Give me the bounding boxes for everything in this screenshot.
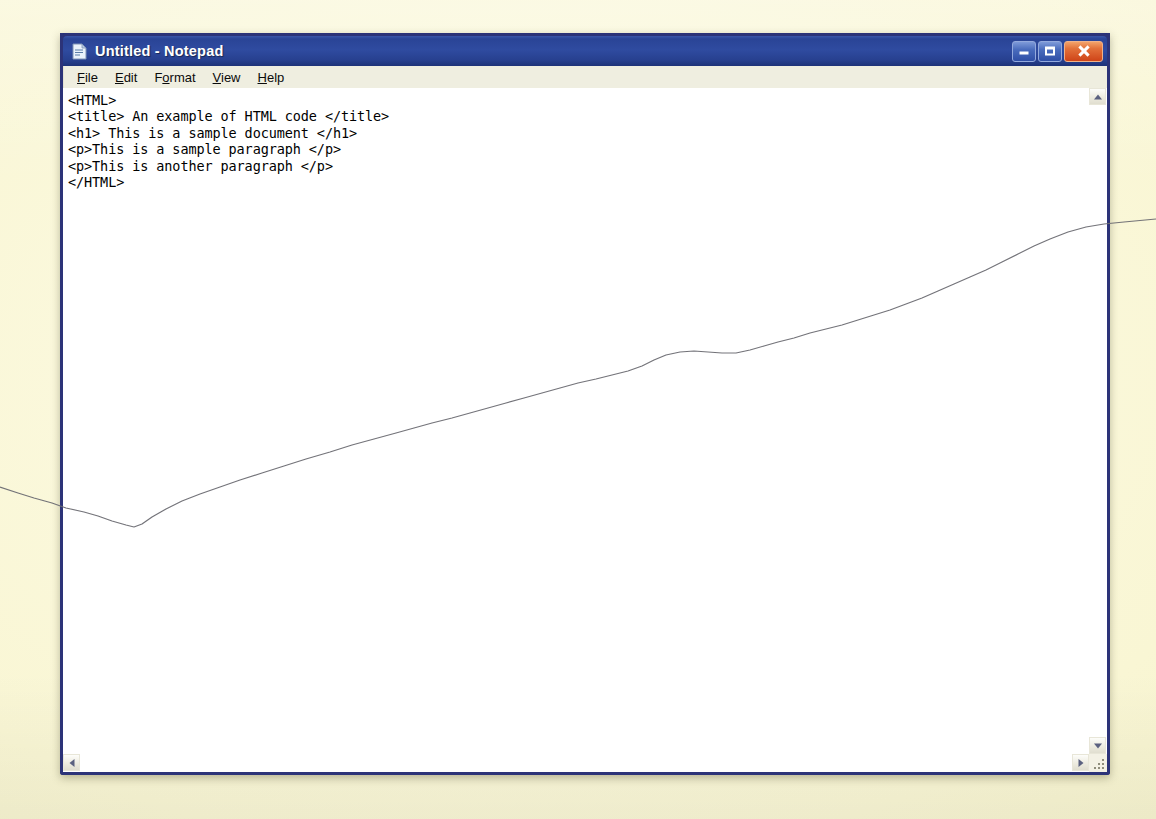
chevron-down-icon — [1094, 743, 1102, 748]
scroll-right-button[interactable] — [1072, 754, 1089, 771]
editor-text: <HTML> <title> An example of HTML code <… — [68, 92, 1088, 190]
minimize-button[interactable] — [1012, 41, 1036, 62]
chevron-right-icon — [1078, 759, 1083, 767]
scroll-left-button[interactable] — [63, 754, 80, 771]
text-editor[interactable]: <HTML> <title> An example of HTML code <… — [63, 88, 1088, 754]
menu-item-edit[interactable]: Edit — [107, 68, 146, 87]
menu-bar: File Edit Format View Help — [63, 66, 1107, 88]
notepad-document-icon — [71, 43, 88, 60]
horizontal-scrollbar[interactable] — [63, 754, 1089, 772]
chevron-up-icon — [1094, 94, 1102, 99]
window-title: Untitled - Notepad — [95, 43, 1010, 59]
resize-grip-icon[interactable] — [1089, 754, 1107, 772]
menu-item-help[interactable]: Help — [250, 68, 294, 87]
maximize-icon — [1045, 47, 1055, 56]
menu-item-view[interactable]: View — [205, 68, 250, 87]
minimize-icon — [1020, 52, 1029, 55]
menu-item-file[interactable]: File — [69, 68, 107, 87]
menu-item-format[interactable]: Format — [146, 68, 204, 87]
client-area: <HTML> <title> An example of HTML code <… — [63, 88, 1107, 772]
title-bar[interactable]: Untitled - Notepad — [60, 33, 1110, 66]
scroll-up-button[interactable] — [1089, 88, 1106, 105]
close-button[interactable] — [1064, 41, 1103, 62]
notepad-window: Untitled - Notepad File Edit Format View… — [60, 33, 1110, 775]
maximize-button[interactable] — [1038, 41, 1062, 62]
vertical-scrollbar[interactable] — [1088, 88, 1107, 754]
scroll-down-button[interactable] — [1089, 737, 1106, 754]
chevron-left-icon — [69, 759, 74, 767]
